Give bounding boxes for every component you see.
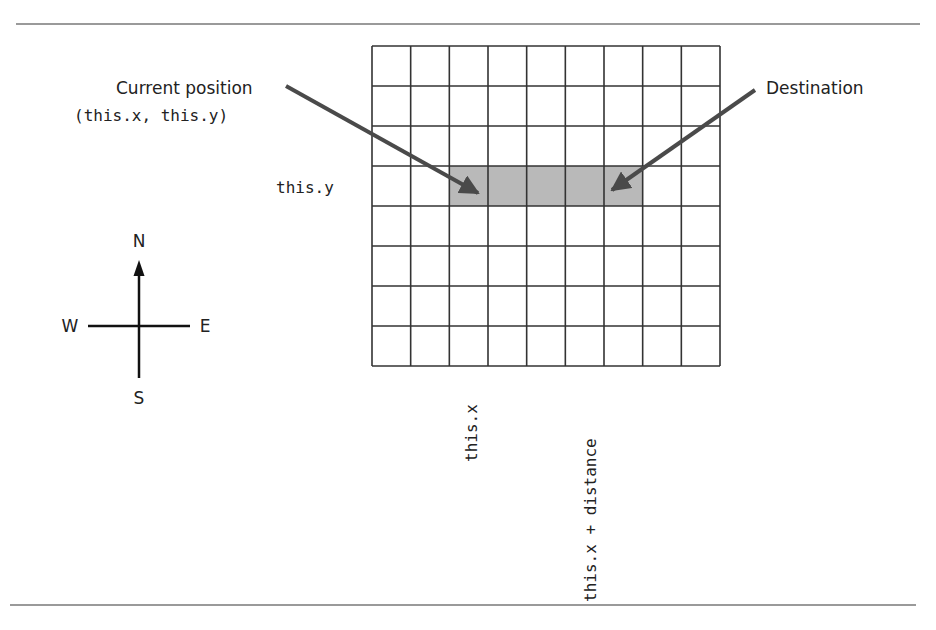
highlighted-cell (527, 166, 566, 206)
grid (372, 46, 720, 366)
movement-diagram: Current position (this.x, this.y) Destin… (0, 0, 936, 630)
this-x-label: this.x (462, 404, 481, 462)
this-y-label: this.y (276, 178, 334, 197)
compass-south: S (134, 388, 145, 408)
compass-north: N (133, 231, 146, 251)
this-x-plus-distance-label: this.x + distance (581, 438, 600, 602)
current-position-label: Current position (116, 78, 253, 98)
highlighted-cell (488, 166, 527, 206)
current-coords-label: (this.x, this.y) (74, 106, 228, 125)
destination-label: Destination (766, 78, 864, 98)
compass-west: W (62, 316, 79, 336)
highlighted-cell (565, 166, 604, 206)
north-arrowhead-icon (134, 260, 145, 276)
compass-east: E (200, 316, 211, 336)
destination-arrow (612, 90, 755, 190)
highlighted-path-cells (449, 166, 642, 206)
compass: N S W E (62, 231, 211, 408)
